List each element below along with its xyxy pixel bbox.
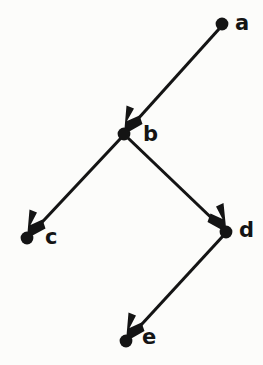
directed-graph-figure: a b c d e	[0, 0, 263, 365]
edge-a-b-line	[128, 29, 219, 130]
node-c-dot	[21, 232, 34, 245]
node-b-label: b	[143, 122, 158, 146]
node-a-label: a	[235, 11, 249, 35]
edge-group	[27, 29, 227, 342]
node-d-label: d	[239, 218, 254, 242]
edge-b-c[interactable]	[27, 138, 121, 239]
node-a-dot	[216, 18, 229, 31]
node-e-label: e	[142, 325, 156, 349]
node-a[interactable]: a	[216, 11, 250, 35]
node-e-dot	[120, 335, 133, 348]
edge-b-d-line	[128, 138, 222, 228]
node-d-dot	[220, 226, 233, 239]
node-c-label: c	[45, 225, 57, 249]
graph-canvas: a b c d e	[0, 0, 263, 365]
edge-b-c-line	[31, 138, 121, 234]
node-b-dot	[118, 128, 131, 141]
edge-b-d[interactable]	[128, 138, 227, 233]
edge-d-e-line	[130, 236, 223, 337]
edge-a-b[interactable]	[124, 29, 219, 135]
edge-d-e[interactable]	[126, 236, 223, 342]
node-group: a b c d e	[21, 11, 254, 349]
